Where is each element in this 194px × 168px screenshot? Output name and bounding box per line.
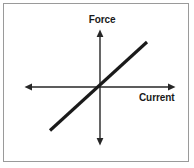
diagram-canvas: Force Current <box>0 0 194 168</box>
arrow-left-icon <box>25 84 33 91</box>
x-axis-label: Current <box>139 92 174 103</box>
arrow-up-icon <box>97 30 104 38</box>
arrow-down-icon <box>97 138 104 146</box>
plot-area <box>0 0 194 168</box>
data-line-force-vs-current <box>50 42 147 131</box>
y-axis-label: Force <box>82 14 122 25</box>
arrow-right-icon <box>168 84 176 91</box>
